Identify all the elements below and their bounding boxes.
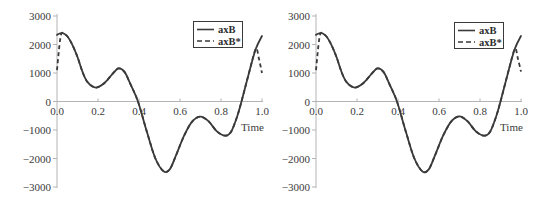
y-tick-label: 2000	[29, 39, 52, 51]
series-axB-star-line	[316, 33, 521, 173]
y-tick-label: −3000	[282, 181, 311, 193]
x-tick-label: 1.0	[514, 105, 528, 117]
x-tick-label: 0.8	[473, 105, 487, 117]
y-tick-label: 3000	[288, 10, 311, 22]
chart-left: 3000 2000 1000 0 −1000 −2000 −3000 0.0 0…	[23, 10, 270, 193]
y-tick-label: −2000	[282, 153, 311, 165]
legend: axB axB*	[194, 22, 243, 48]
legend: axB axB*	[455, 23, 504, 49]
x-tick-label: 0.0	[50, 105, 64, 117]
y-tick-label: 2000	[288, 39, 311, 51]
legend-label-axB-star: axB*	[218, 36, 241, 47]
y-tick-label: 1000	[288, 67, 311, 79]
x-tick-label: 0.0	[309, 105, 323, 117]
y-tick-label: −2000	[23, 153, 52, 165]
y-tick-label: −1000	[23, 124, 52, 136]
figure: 3000 2000 1000 0 −1000 −2000 −3000 0.0 0…	[0, 0, 551, 203]
x-tick-label: 0.8	[214, 105, 228, 117]
x-axis-title: Time	[241, 121, 264, 133]
x-tick-labels: 0.0 0.2 0.4 0.6 0.8 1.0	[50, 105, 269, 117]
y-tick-label: 1000	[29, 67, 52, 79]
y-tick-labels: 3000 2000 1000 0 −1000 −2000 −3000	[282, 10, 311, 193]
series-axB-line	[57, 33, 262, 172]
x-tick-label: 0.2	[350, 105, 364, 117]
y-ticks	[53, 16, 57, 187]
y-ticks	[312, 16, 316, 187]
legend-label-axB: axB	[218, 24, 236, 35]
legend-label-axB-star: axB*	[479, 37, 502, 48]
series-axB-line	[316, 33, 521, 173]
chart-right: 3000 2000 1000 0 −1000 −2000 −3000 0.0 0…	[282, 10, 529, 193]
x-tick-label: 0.6	[432, 105, 446, 117]
y-tick-label: −1000	[282, 124, 311, 136]
legend-label-axB: axB	[479, 25, 497, 36]
y-tick-label: −3000	[23, 181, 52, 193]
x-tick-label: 0.6	[173, 105, 187, 117]
series-axB-star-line	[57, 33, 262, 172]
y-tick-labels: 3000 2000 1000 0 −1000 −2000 −3000	[23, 10, 52, 193]
x-tick-labels: 0.0 0.2 0.4 0.6 0.8 1.0	[309, 105, 528, 117]
x-tick-label: 1.0	[255, 105, 269, 117]
x-axis-title: Time	[500, 121, 523, 133]
y-tick-label: 3000	[29, 10, 52, 22]
x-tick-label: 0.2	[91, 105, 105, 117]
